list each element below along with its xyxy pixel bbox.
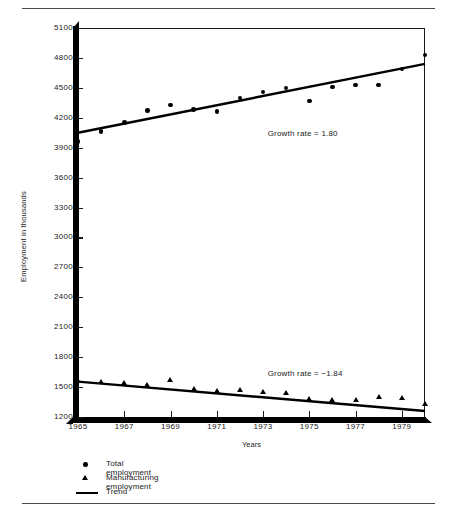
x-tick-label: 1979 — [382, 422, 422, 431]
line-marker-icon — [76, 485, 98, 499]
trend-line — [78, 64, 425, 133]
trend-lines — [78, 28, 425, 417]
trend-line — [78, 382, 425, 411]
data-point-triangle — [283, 390, 289, 395]
data-point-triangle — [422, 401, 428, 406]
data-point-triangle — [329, 397, 335, 402]
data-point-triangle — [260, 389, 266, 394]
y-tick-label: 1200 — [39, 412, 73, 421]
data-point-triangle — [98, 379, 104, 384]
data-point-triangle — [376, 394, 382, 399]
data-point-circle — [307, 99, 312, 104]
data-point-circle — [353, 83, 358, 88]
data-point-triangle — [75, 378, 81, 383]
x-tick-label: 1975 — [289, 422, 329, 431]
y-tick-label: 3600 — [39, 173, 73, 182]
x-tick-label: 1967 — [104, 422, 144, 431]
y-tick-label: 4200 — [39, 113, 73, 122]
x-tick-label: 1977 — [336, 422, 376, 431]
data-point-circle — [423, 53, 428, 58]
y-axis-title: Employment in thousands — [19, 167, 28, 307]
data-point-circle — [145, 108, 150, 113]
data-point-circle — [191, 107, 196, 112]
data-point-circle — [122, 120, 127, 125]
x-tick-label: 1969 — [151, 422, 191, 431]
annotation-growth-rate-manufacturing: Growth rate = −1.84 — [268, 369, 343, 378]
y-tick-label: 1800 — [39, 352, 73, 361]
plot-area: 1200150018002100240027003000330036003900… — [78, 28, 425, 417]
x-axis-title: Years — [78, 440, 425, 449]
data-point-triangle — [167, 377, 173, 382]
data-point-circle — [215, 109, 220, 114]
circle-marker-glyph — [83, 462, 88, 467]
annotation-growth-rate-total: Growth rate = 1.80 — [268, 129, 338, 138]
line-marker-glyph — [76, 492, 98, 495]
y-tick-label: 2700 — [39, 262, 73, 271]
y-tick-label: 5100 — [39, 23, 73, 32]
x-tick-label: 1965 — [58, 422, 98, 431]
y-tick-label: 1500 — [39, 382, 73, 391]
circle-marker-icon — [76, 457, 98, 471]
data-point-circle — [376, 83, 381, 88]
triangle-marker-glyph — [82, 475, 88, 480]
y-tick-label: 3900 — [39, 143, 73, 152]
y-axis-bevel — [73, 21, 79, 28]
x-tick-label: 1971 — [197, 422, 237, 431]
y-tick-label: 4500 — [39, 83, 73, 92]
y-tick-label: 2400 — [39, 292, 73, 301]
data-point-triangle — [237, 387, 243, 392]
x-tick-label: 1973 — [243, 422, 283, 431]
data-point-triangle — [306, 396, 312, 401]
data-point-triangle — [399, 395, 405, 400]
y-tick-label: 3300 — [39, 203, 73, 212]
data-point-triangle — [191, 386, 197, 391]
triangle-marker-icon — [76, 471, 98, 485]
y-tick-mark — [78, 417, 83, 418]
legend-item-label: Trend — [106, 487, 127, 496]
y-tick-label: 2100 — [39, 322, 73, 331]
data-point-triangle — [214, 388, 220, 393]
data-point-circle — [330, 85, 335, 90]
data-point-circle — [168, 103, 173, 108]
y-tick-label: 3000 — [39, 232, 73, 241]
data-point-triangle — [144, 382, 150, 387]
data-point-triangle — [353, 397, 359, 402]
y-tick-label: 4800 — [39, 53, 73, 62]
employment-trend-figure: Employment in thousands Years 1200150018… — [0, 0, 457, 524]
x-axis-bevel — [425, 417, 432, 423]
data-point-triangle — [121, 380, 127, 385]
bottom-divider-rule — [22, 503, 435, 504]
